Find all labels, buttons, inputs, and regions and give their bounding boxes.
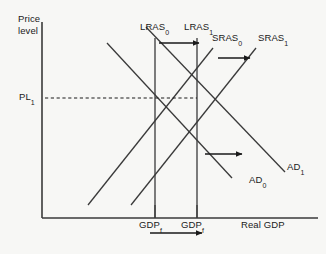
sras1-label-text: SRAS [258,32,284,43]
ad-curves [107,27,285,178]
sras0-label-sub: 0 [238,40,242,47]
ad-as-diagram: Price level PL1 LRAS0 LRAS1 SRAS0 SRAS1 … [0,0,326,254]
ad1-curve [146,27,285,172]
lras0-label-sub: 0 [165,29,169,36]
ad1-label-text: AD [287,161,300,172]
shift-arrows [150,43,250,233]
pl1-label-text: PL [19,91,31,102]
axes-group [42,22,318,218]
lras0-label: LRAS0 [140,21,169,32]
lras0-label-text: LRAS [140,21,165,32]
ad1-label-sub: 1 [300,169,304,176]
lras1-label: LRAS1 [184,21,213,32]
sras-curves [88,48,256,205]
sras0-label-text: SRAS [212,32,238,43]
ad0-label-text: AD [249,174,262,185]
sras1-label: SRAS1 [258,32,288,43]
x-axis-ticks [155,205,197,218]
ad1-label: AD1 [287,161,304,172]
gdp-f0-label-text: GDP [139,219,160,230]
ad0-label-sub: 0 [262,182,266,189]
gdp-f1-label-text: GDP [181,219,202,230]
sras1-label-sub: 1 [284,40,288,47]
gdp-f1-label: GDPf [181,219,204,230]
pl1-label-sub: 1 [31,99,35,106]
x-axis-title: Real GDP [241,219,285,230]
lras1-label-text: LRAS [184,21,209,32]
lras-curves [155,38,197,218]
pl1-label: PL1 [19,91,35,102]
gdp-f1-label-sub: f [202,227,204,234]
gdp-f0-label-sub: f [160,227,162,234]
ad0-label: AD0 [249,174,266,185]
gdp-f0-label: GDPf [139,219,162,230]
y-axis-title: Price level [18,13,40,36]
sras0-label: SRAS0 [212,32,242,43]
